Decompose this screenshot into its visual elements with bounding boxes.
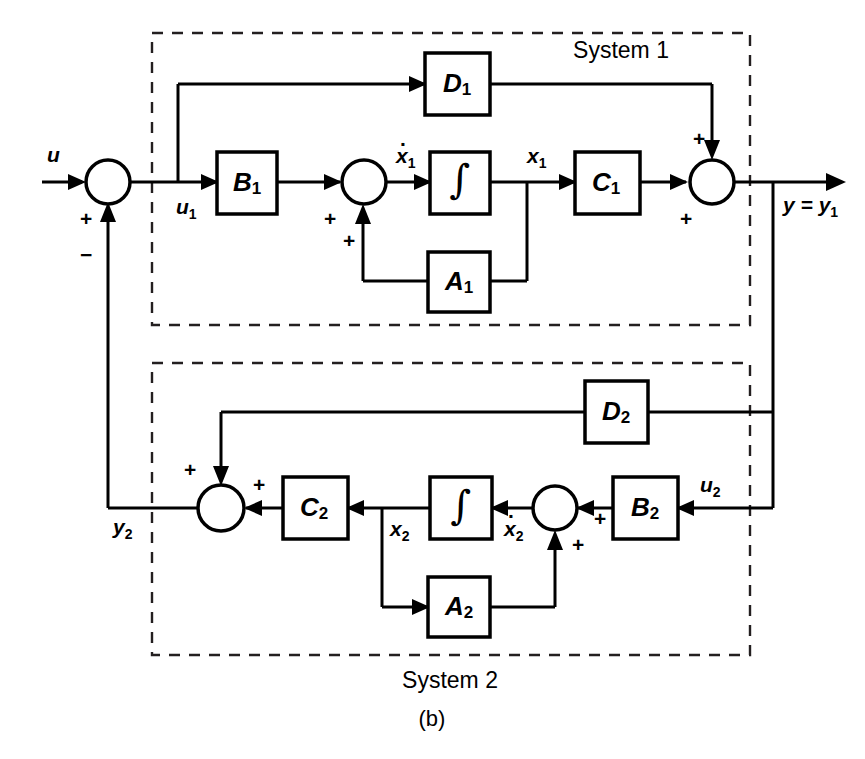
signal-label-x2: x2 xyxy=(389,517,410,544)
sign-sum-state2-plus-right: + xyxy=(594,507,606,530)
signal-xdot1-text: x1 xyxy=(395,144,416,171)
signal-xdot2-text: x2 xyxy=(503,517,524,544)
signal-label-u1: u1 xyxy=(176,195,197,222)
signal-label-u: u xyxy=(47,143,60,166)
arrowhead-D1-into-output-sum xyxy=(704,140,720,160)
sign-sum-input-plus: + xyxy=(80,207,92,230)
signal-label-xdot1: . x1 xyxy=(395,127,416,171)
sign-sum-output1-plus-left: + xyxy=(680,207,692,230)
sign-sum-state1-plus-left: + xyxy=(324,207,336,230)
diagram-canvas: B1 D1 ∫ C1 A1 B2 D2 ∫ C2 A2 + − + + + + … xyxy=(0,0,865,759)
sum-junction-output1[interactable] xyxy=(690,160,734,204)
signal-label-x1: x1 xyxy=(526,144,547,171)
sign-sum-output2-plus-right: + xyxy=(253,473,265,496)
arrowhead-C2-into-sum-output2 xyxy=(244,500,262,516)
block-diagram-figure: B1 D1 ∫ C1 A1 B2 D2 ∫ C2 A2 + − + + + + … xyxy=(0,0,865,759)
block-integrator2-label: ∫ xyxy=(451,482,472,528)
sum-junction-output2[interactable] xyxy=(198,485,244,531)
sign-sum-state2-plus-bottom: + xyxy=(572,533,584,556)
panel-label: (b) xyxy=(419,706,446,731)
arrowhead-u-into-sum-input xyxy=(68,174,86,190)
sum-junction-state2[interactable] xyxy=(533,486,577,530)
sum-junction-input[interactable] xyxy=(86,160,130,204)
sign-sum-input-minus: − xyxy=(80,243,92,266)
arrowhead-into-sum-state1 xyxy=(324,174,342,190)
arrowhead-y-output xyxy=(826,173,846,191)
arrowhead-A1-into-sum-state1 xyxy=(355,204,371,224)
signal-label-u2: u2 xyxy=(700,473,721,500)
sum-junction-state1[interactable] xyxy=(342,160,386,204)
arrowhead-C1-into-output-sum xyxy=(670,174,688,190)
system2-label: System 2 xyxy=(402,667,498,693)
sign-sum-state1-plus-bottom: + xyxy=(343,229,355,252)
sign-sum-output1-plus-top: + xyxy=(693,127,705,150)
arrowhead-D2-into-sum-output2 xyxy=(213,466,229,486)
arrowhead-A2-into-sum-state2 xyxy=(547,530,563,550)
signal-label-y2: y2 xyxy=(112,515,133,542)
signal-label-y-eq-y1: y = y1 xyxy=(782,193,838,220)
block-integrator1-label: ∫ xyxy=(450,156,471,202)
sign-sum-output2-plus-top: + xyxy=(184,458,196,481)
system1-label: System 1 xyxy=(573,37,669,63)
